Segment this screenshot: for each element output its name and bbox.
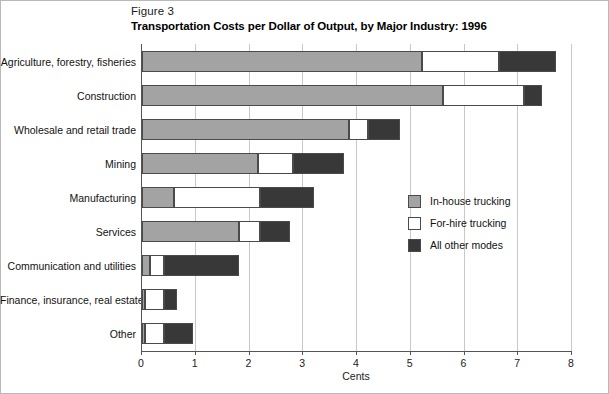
tick-mark-5 bbox=[410, 351, 411, 355]
bar-row bbox=[142, 255, 572, 276]
category-label-8: Other bbox=[0, 328, 136, 340]
legend-item-in_house_trucking: In-house trucking bbox=[408, 190, 568, 212]
tick-mark-0 bbox=[141, 351, 142, 355]
bar-segment bbox=[258, 153, 293, 174]
bar-segment bbox=[150, 255, 163, 276]
category-label-6: Communication and utilities bbox=[0, 260, 136, 272]
legend-item-for_hire_trucking: For-hire trucking bbox=[408, 212, 568, 234]
bar-segment bbox=[260, 221, 290, 242]
bar-row bbox=[142, 119, 572, 140]
tick-mark-8 bbox=[571, 351, 572, 355]
bar-segment bbox=[239, 221, 261, 242]
category-label-3: Mining bbox=[0, 158, 136, 170]
bar-segment bbox=[164, 255, 239, 276]
x-tick-label-8: 8 bbox=[556, 357, 586, 369]
bar-segment bbox=[293, 153, 344, 174]
legend-label: All other modes bbox=[430, 239, 503, 251]
bar-segment bbox=[142, 255, 150, 276]
x-tick-label-2: 2 bbox=[234, 357, 264, 369]
tick-mark-1 bbox=[195, 351, 196, 355]
bar-segment bbox=[142, 221, 239, 242]
x-tick-label-3: 3 bbox=[287, 357, 317, 369]
bar-segment bbox=[142, 153, 258, 174]
bar-segment bbox=[524, 85, 543, 106]
bar-row bbox=[142, 51, 572, 72]
bar-segment bbox=[422, 51, 500, 72]
legend: In-house truckingFor-hire truckingAll ot… bbox=[408, 190, 568, 256]
bar-row bbox=[142, 85, 572, 106]
x-tick-label-4: 4 bbox=[341, 357, 371, 369]
x-tick-label-1: 1 bbox=[180, 357, 210, 369]
figure-number: Figure 3 bbox=[131, 4, 601, 18]
category-label-5: Services bbox=[0, 226, 136, 238]
bar-segment bbox=[443, 85, 524, 106]
bar-row bbox=[142, 323, 572, 344]
x-tick-label-7: 7 bbox=[502, 357, 532, 369]
bar-row bbox=[142, 153, 572, 174]
figure-header: Figure 3 Transportation Costs per Dollar… bbox=[131, 4, 601, 34]
bar-segment bbox=[368, 119, 400, 140]
bar-segment bbox=[164, 289, 177, 310]
x-tick-label-0: 0 bbox=[126, 357, 156, 369]
bar-segment bbox=[145, 323, 164, 344]
x-tick-label-6: 6 bbox=[449, 357, 479, 369]
bar-segment bbox=[142, 187, 174, 208]
category-label-4: Manufacturing bbox=[0, 192, 136, 204]
x-axis-title: Cents bbox=[141, 370, 571, 382]
bar-row bbox=[142, 289, 572, 310]
legend-label: In-house trucking bbox=[430, 195, 511, 207]
tick-mark-4 bbox=[356, 351, 357, 355]
tick-mark-2 bbox=[249, 351, 250, 355]
category-label-0: Agriculture, forestry, fisheries bbox=[0, 56, 136, 68]
legend-swatch-icon bbox=[408, 239, 421, 252]
bar-segment bbox=[142, 119, 349, 140]
tick-mark-7 bbox=[517, 351, 518, 355]
bar-segment bbox=[499, 51, 555, 72]
legend-label: For-hire trucking bbox=[430, 217, 506, 229]
legend-swatch-icon bbox=[408, 217, 421, 230]
bar-segment bbox=[174, 187, 260, 208]
bar-segment bbox=[260, 187, 314, 208]
category-label-7: Finance, insurance, real estate bbox=[0, 294, 136, 306]
page-title: Transportation Costs per Dollar of Outpu… bbox=[131, 19, 601, 34]
bar-segment bbox=[142, 51, 422, 72]
bar-segment bbox=[164, 323, 194, 344]
category-label-2: Wholesale and retail trade bbox=[0, 124, 136, 136]
bar-segment bbox=[145, 289, 164, 310]
bar-segment bbox=[349, 119, 368, 140]
legend-item-all_other_modes: All other modes bbox=[408, 234, 568, 256]
legend-swatch-icon bbox=[408, 195, 421, 208]
tick-mark-6 bbox=[464, 351, 465, 355]
bar-segment bbox=[142, 85, 443, 106]
category-axis-labels: Agriculture, forestry, fisheriesConstruc… bbox=[0, 44, 136, 351]
x-tick-label-5: 5 bbox=[395, 357, 425, 369]
category-label-1: Construction bbox=[0, 90, 136, 102]
tick-mark-3 bbox=[302, 351, 303, 355]
